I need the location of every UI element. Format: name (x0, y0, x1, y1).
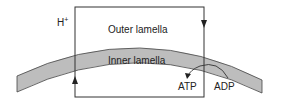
atp-label: ATP (178, 81, 197, 92)
membrane-diagram: H+ Outer lamella Inner lamella ATP ADP (0, 0, 281, 101)
arrow-up-icon (72, 76, 78, 84)
curved-arrow-head-icon (185, 73, 191, 79)
proton-label: H+ (57, 16, 68, 28)
inner-lamella-label: Inner lamella (108, 55, 166, 66)
adp-label: ADP (214, 81, 235, 92)
arrow-down-icon (201, 20, 207, 28)
outer-lamella-label: Outer lamella (108, 24, 168, 35)
